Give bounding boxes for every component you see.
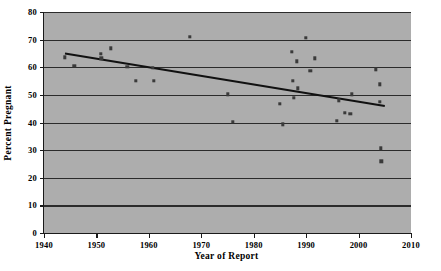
data-point (378, 83, 381, 86)
data-point (296, 87, 299, 90)
y-axis-title: Percent Pregnant (2, 12, 14, 233)
x-axis-tick (306, 233, 307, 238)
y-axis-tick (40, 67, 45, 68)
y-axis-tick (40, 123, 45, 124)
y-axis-tick-label: 20 (28, 173, 37, 183)
y-axis-tick-label: 0 (33, 228, 37, 238)
data-point (126, 65, 129, 68)
x-axis-tick-label: 1960 (140, 240, 158, 250)
data-point (134, 79, 137, 82)
data-point (63, 56, 66, 59)
y-axis-tick-label: 30 (28, 145, 37, 155)
data-point (99, 52, 102, 55)
data-points-layer (44, 12, 411, 233)
data-point (99, 56, 102, 59)
data-point (188, 35, 191, 38)
x-axis-tick (201, 233, 202, 238)
data-point (73, 64, 76, 67)
y-axis-tick-label: 40 (28, 118, 37, 128)
x-axis-tick-label: 1940 (35, 240, 53, 250)
x-axis-tick (254, 233, 255, 238)
y-axis-tick (40, 150, 45, 151)
x-axis-tick (96, 233, 97, 238)
x-axis-tick-label: 1980 (245, 240, 263, 250)
data-point (151, 66, 154, 69)
data-point (304, 36, 307, 39)
y-axis-title-text: Percent Pregnant (3, 85, 13, 160)
data-point (350, 93, 353, 96)
data-point (335, 119, 338, 122)
data-point (292, 96, 295, 99)
data-point (343, 111, 346, 114)
y-axis-tick-label: 50 (28, 90, 37, 100)
y-axis-tick (40, 95, 45, 96)
plot-area: 0102030405060708019401950196019701980199… (43, 12, 411, 234)
x-axis-tick-label: 1990 (297, 240, 315, 250)
y-axis-tick (40, 12, 45, 13)
data-point (226, 93, 229, 96)
data-point (378, 100, 381, 103)
y-axis-tick-label: 70 (28, 35, 37, 45)
y-axis-tick-label: 60 (28, 62, 37, 72)
x-axis-tick (359, 233, 360, 238)
data-point (231, 120, 234, 123)
data-point (109, 46, 112, 49)
x-axis-tick-label: 1970 (192, 240, 210, 250)
data-point (295, 59, 298, 62)
data-point (348, 112, 351, 115)
data-point (309, 69, 312, 72)
data-point (278, 102, 281, 105)
x-axis-tick-label: 2010 (402, 240, 420, 250)
data-point (281, 122, 284, 125)
y-axis-tick (40, 40, 45, 41)
x-axis-tick (44, 233, 45, 238)
scatter-chart: 0102030405060708019401950196019701980199… (0, 0, 441, 271)
y-axis-tick-label: 10 (28, 200, 37, 210)
x-axis-tick-label: 1950 (88, 240, 106, 250)
data-point (152, 79, 155, 82)
data-point (379, 146, 382, 149)
x-axis-title: Year of Report (43, 251, 410, 261)
y-axis-tick (40, 178, 45, 179)
y-axis-tick (40, 205, 45, 206)
data-point (337, 98, 340, 101)
x-axis-tick (411, 233, 412, 238)
x-axis-tick-label: 2000 (350, 240, 368, 250)
y-axis-tick-label: 80 (28, 7, 37, 17)
data-point (313, 57, 316, 60)
x-axis-tick (149, 233, 150, 238)
data-point (374, 67, 377, 70)
data-point (379, 160, 382, 163)
data-point (290, 50, 293, 53)
data-point (291, 79, 294, 82)
